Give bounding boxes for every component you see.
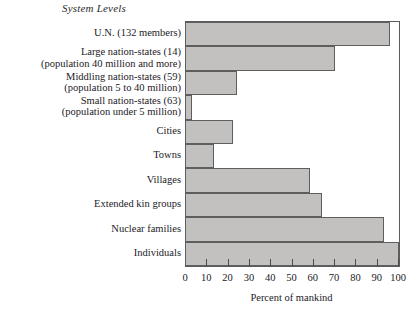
bar-remainder [384,217,399,241]
bar [185,144,214,168]
category-label-line1: Nuclear families [111,223,181,234]
category-label-line2: (population 5 to 40 million) [0,82,181,94]
bar-remainder [233,120,399,144]
category-label-line2: (population under 5 million) [0,106,181,118]
category-label: Individuals [0,247,181,259]
category-label: Extended kin groups [0,198,181,210]
x-axis-tick [292,259,293,266]
category-label: Small nation-states (63)(population unde… [0,95,181,118]
x-axis-tick [398,259,399,266]
x-axis-tick [206,259,207,266]
category-label: Nuclear families [0,223,181,235]
bar [185,193,322,217]
category-label-line1: Middling nation-states (59) [66,71,181,82]
bar [185,217,384,241]
bar-row [186,46,399,70]
bar [185,22,390,46]
bar-remainder [214,144,399,168]
category-label-line2: (population 40 million and more) [0,58,181,70]
category-label-line1: Cities [156,125,181,136]
bar [185,168,310,192]
x-axis-title: Percent of mankind [185,292,398,303]
bar-remainder [322,193,399,217]
x-axis-tick [355,259,356,266]
category-label-line1: Villages [147,174,181,185]
bar-row [186,242,399,266]
category-label-line1: Towns [153,149,181,160]
plot-area [185,21,400,267]
chart-title: System Levels [0,2,188,14]
category-label-line1: Small nation-states (63) [81,95,181,106]
bar-remainder [237,71,399,95]
bar [185,95,192,119]
bar [185,71,237,95]
x-axis-tick [228,259,229,266]
bar-row [186,95,399,119]
x-axis-tick-label: 100 [385,272,411,283]
x-axis-tick [313,259,314,266]
bar-row [186,144,399,168]
bar-remainder [192,95,399,119]
x-axis-tick [377,259,378,266]
category-label: Villages [0,174,181,186]
category-label-line1: Large nation-states (14) [81,46,181,57]
category-label: Middling nation-states (59)(population 5… [0,71,181,94]
x-axis-tick-labels: 0102030405060708090100 [0,272,418,286]
bar-row [186,193,399,217]
category-label: U.N. (132 members) [0,27,181,39]
bar-row [186,71,399,95]
bar-remainder [335,46,399,70]
bar-remainder [310,168,399,192]
category-label-line1: U.N. (132 members) [94,27,181,38]
bar-remainder [390,22,399,46]
category-label: Large nation-states (14)(population 40 m… [0,46,181,69]
bar [185,46,335,70]
bar-row [186,217,399,241]
bar-row [186,120,399,144]
category-label: Cities [0,125,181,137]
chart-figure: System Levels U.N. (132 members)Large na… [0,0,418,318]
category-label-column: U.N. (132 members)Large nation-states (1… [0,21,183,265]
bar [185,120,233,144]
x-axis-tick [270,259,271,266]
category-label-line1: Individuals [134,247,181,258]
category-label-line1: Extended kin groups [94,198,181,209]
x-axis-tick [249,259,250,266]
bar-row [186,168,399,192]
x-axis-tick [334,259,335,266]
category-label: Towns [0,149,181,161]
bar-row [186,22,399,46]
